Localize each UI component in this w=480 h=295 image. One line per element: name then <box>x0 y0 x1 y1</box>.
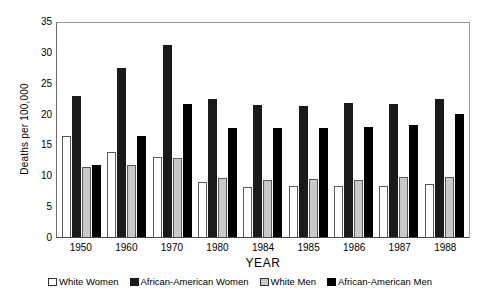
plot-area <box>56 22 470 238</box>
bar-group-1980 <box>195 23 240 237</box>
bar <box>273 128 282 237</box>
x-tick-1950: 1950 <box>58 241 104 255</box>
bar-group-1960 <box>104 23 149 237</box>
x-axis-title: YEAR <box>56 256 470 270</box>
bar-group-1986 <box>331 23 376 237</box>
x-tick-1984: 1984 <box>240 241 286 255</box>
bar <box>319 128 328 237</box>
y-axis-tick-labels: 35302520151050 <box>30 0 52 295</box>
bar <box>218 178 227 237</box>
legend-swatch-icon <box>48 278 57 286</box>
legend-item-1: African-American Women <box>130 277 249 287</box>
x-tick-1985: 1985 <box>286 241 332 255</box>
bar <box>455 114 464 237</box>
bar <box>208 99 217 237</box>
legend-swatch-icon <box>130 278 139 286</box>
x-axis-tick-labels: 195019601970198019841985198619871988 <box>56 241 470 255</box>
bar <box>364 127 373 237</box>
legend-swatch-icon <box>260 278 269 286</box>
legend-label: White Women <box>59 277 118 287</box>
bar <box>163 45 172 237</box>
x-tick-1988: 1988 <box>423 241 469 255</box>
y-tick-10: 10 <box>30 171 52 181</box>
bar <box>92 165 101 237</box>
bar <box>289 186 298 237</box>
bar-group-1985 <box>286 23 331 237</box>
bar <box>435 99 444 237</box>
bar <box>299 106 308 237</box>
y-tick-25: 25 <box>30 79 52 89</box>
x-tick-1960: 1960 <box>104 241 150 255</box>
bar <box>344 103 353 237</box>
x-tick-1986: 1986 <box>331 241 377 255</box>
bar <box>173 158 182 237</box>
bar <box>82 167 91 237</box>
bar-group-1988 <box>422 23 467 237</box>
y-tick-20: 20 <box>30 110 52 120</box>
bar-groups <box>57 23 469 237</box>
legend-label: White Men <box>271 277 316 287</box>
bar <box>379 186 388 237</box>
bar-group-1984 <box>240 23 285 237</box>
bar <box>72 96 81 237</box>
legend-item-0: White Women <box>48 277 118 287</box>
bar <box>389 104 398 237</box>
bar <box>183 104 192 237</box>
bar-group-1950 <box>59 23 104 237</box>
bar <box>228 128 237 237</box>
bar <box>117 68 126 237</box>
bar <box>399 177 408 237</box>
x-tick-1970: 1970 <box>149 241 195 255</box>
bar <box>127 165 136 237</box>
bar <box>243 187 252 237</box>
bar <box>445 177 454 237</box>
y-tick-35: 35 <box>30 17 52 27</box>
bar <box>62 136 71 237</box>
legend-label: African-American Men <box>338 277 432 287</box>
bar <box>263 180 272 237</box>
y-tick-0: 0 <box>30 233 52 243</box>
legend-swatch-icon <box>327 278 336 286</box>
bar-group-1987 <box>376 23 421 237</box>
bar <box>309 179 318 237</box>
y-tick-30: 30 <box>30 48 52 58</box>
legend-label: African-American Women <box>141 277 249 287</box>
y-tick-15: 15 <box>30 140 52 150</box>
chart-legend: White WomenAfrican-American WomenWhite M… <box>0 277 480 287</box>
bar <box>198 182 207 237</box>
x-tick-1987: 1987 <box>377 241 423 255</box>
bar <box>409 125 418 237</box>
bar <box>334 186 343 237</box>
bar <box>253 105 262 237</box>
bar <box>107 152 116 237</box>
bar <box>425 184 434 237</box>
bar-group-1970 <box>150 23 195 237</box>
bar-chart-figure: Deaths per 100,000 35302520151050 195019… <box>0 0 480 295</box>
bar <box>137 136 146 237</box>
legend-item-2: White Men <box>260 277 316 287</box>
bar <box>153 157 162 237</box>
y-tick-5: 5 <box>30 202 52 212</box>
legend-item-3: African-American Men <box>327 277 432 287</box>
bar <box>354 180 363 237</box>
x-tick-1980: 1980 <box>195 241 241 255</box>
